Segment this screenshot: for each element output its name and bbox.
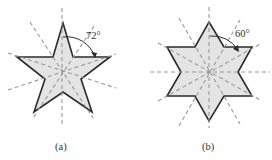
- symmetry-axes-a: [8, 8, 116, 126]
- figure-a: 72° (a): [8, 8, 116, 153]
- angle-label-b: 60°: [235, 28, 250, 39]
- caption-b: (b): [202, 141, 215, 153]
- angle-label-a: 72°: [86, 30, 101, 41]
- symmetry-diagram: 72° (a) 60° (b): [0, 0, 272, 160]
- caption-a: (a): [55, 141, 67, 153]
- figure-b: 60° (b): [150, 7, 270, 153]
